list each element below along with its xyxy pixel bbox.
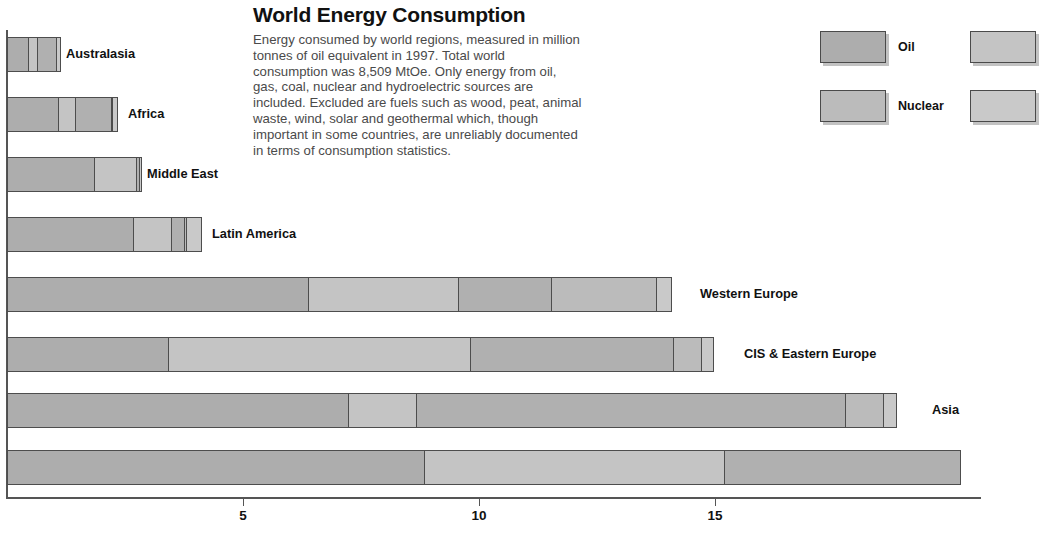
stacked-bar[interactable]: [7, 157, 142, 192]
bar-row[interactable]: [0, 450, 981, 485]
bar-segment-oil: [8, 218, 134, 251]
x-axis-tick-label: 15: [707, 508, 722, 523]
bar-row[interactable]: Latin America: [0, 217, 981, 252]
x-axis-tick-label: 10: [471, 508, 486, 523]
bar-segment-coal: [471, 338, 674, 371]
x-axis-tick-label: 5: [239, 508, 247, 523]
bar-row[interactable]: Africa: [0, 97, 981, 132]
bar-row[interactable]: Western Europe: [0, 277, 981, 312]
bar-segment-coal: [459, 278, 553, 311]
stacked-bar[interactable]: [7, 337, 714, 372]
bar-segment-coal: [725, 451, 961, 484]
bar-segment-oil: [8, 451, 425, 484]
bar-segment-oil: [8, 278, 309, 311]
stacked-bar[interactable]: [7, 277, 672, 312]
bar-category-label: Middle East: [147, 166, 218, 181]
bar-segment-nuclear: [674, 338, 702, 371]
bar-segment-gas: [59, 98, 76, 131]
bar-segment-coal: [76, 98, 112, 131]
bar-row[interactable]: CIS & Eastern Europe: [0, 337, 981, 372]
bar-category-label: Western Europe: [700, 286, 798, 301]
bar-segment-coal: [417, 394, 846, 427]
x-axis-tick: [243, 497, 244, 506]
stacked-bar[interactable]: [7, 37, 61, 72]
x-axis-line: [6, 497, 981, 499]
stacked-bar[interactable]: [7, 97, 118, 132]
bar-segment-gas: [134, 218, 173, 251]
bar-segment-oil: [8, 98, 59, 131]
bar-segment-gas: [349, 394, 417, 427]
bar-segment-coal: [38, 38, 56, 71]
bar-segment-hydro: [140, 158, 142, 191]
bar-segment-oil: [8, 38, 29, 71]
bar-segment-nuclear: [846, 394, 884, 427]
bar-segment-hydro: [657, 278, 670, 311]
bar-segment-oil: [8, 338, 169, 371]
bar-category-label: Africa: [128, 106, 164, 121]
bar-category-label: Latin America: [212, 226, 296, 241]
bar-segment-gas: [95, 158, 136, 191]
bar-segment-gas: [309, 278, 459, 311]
bar-row[interactable]: Asia: [0, 393, 981, 428]
bar-segment-coal: [172, 218, 184, 251]
bar-segment-hydro: [884, 394, 896, 427]
bar-segment-nuclear: [552, 278, 657, 311]
bar-segment-gas: [425, 451, 725, 484]
bar-row[interactable]: Middle East: [0, 157, 981, 192]
bar-segment-oil: [8, 394, 349, 427]
bar-segment-gas: [169, 338, 470, 371]
bar-category-label: CIS & Eastern Europe: [744, 346, 876, 361]
x-axis-tick: [479, 497, 480, 506]
x-axis-tick: [715, 497, 716, 506]
bar-category-label: Australasia: [66, 46, 135, 61]
bar-row[interactable]: Australasia: [0, 37, 981, 72]
stacked-bar[interactable]: [7, 217, 202, 252]
stacked-bar[interactable]: [7, 393, 897, 428]
bar-category-label: Asia: [932, 402, 959, 417]
bar-segment-hydro: [187, 218, 201, 251]
bar-segment-oil: [8, 158, 95, 191]
bar-segment-gas: [29, 38, 38, 71]
stacked-bar[interactable]: [7, 450, 961, 485]
bar-segment-hydro: [702, 338, 713, 371]
bar-segment-hydro: [57, 38, 60, 71]
bar-segment-hydro: [113, 98, 117, 131]
